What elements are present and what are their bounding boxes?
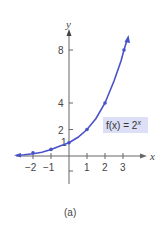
x-tick-label: −1 bbox=[43, 162, 55, 173]
x-axis-label: x bbox=[149, 150, 155, 162]
y-ticks bbox=[69, 50, 73, 171]
curve-left-arrow-icon bbox=[14, 153, 21, 158]
curve-arrow-icon bbox=[125, 35, 131, 43]
y-tick-label: 4 bbox=[58, 98, 64, 109]
exponential-curve bbox=[17, 40, 127, 155]
x-tick-label: 2 bbox=[102, 162, 108, 173]
function-exponent: x bbox=[136, 119, 141, 126]
y-tick-label: 1 bbox=[61, 137, 67, 148]
function-label: f(x) = 2x bbox=[106, 119, 141, 131]
y-tick-label: 8 bbox=[58, 45, 64, 56]
x-tick-label: −2 bbox=[25, 162, 37, 173]
x-tick-label: 1 bbox=[84, 162, 90, 173]
x-tick-label: 3 bbox=[120, 162, 126, 173]
y-axis-label: y bbox=[65, 18, 71, 30]
x-axis-arrow-icon bbox=[140, 154, 147, 159]
data-points bbox=[31, 48, 126, 154]
exponential-graph: −2 −1 1 2 3 8 4 2 1 x y f(x) = 2x (a) bbox=[0, 0, 168, 234]
y-axis-arrow-icon bbox=[67, 29, 72, 36]
y-tick-label: 2 bbox=[58, 125, 64, 136]
figure-caption: (a) bbox=[64, 207, 76, 218]
